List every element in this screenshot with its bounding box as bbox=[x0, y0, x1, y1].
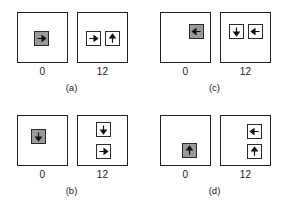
panel-caption: (a) bbox=[0, 82, 143, 93]
arrow-down-icon bbox=[33, 131, 44, 142]
tick-label-right: 12 bbox=[77, 169, 128, 180]
outlined-state-cell bbox=[96, 122, 111, 137]
gray-state-cell bbox=[189, 24, 204, 39]
state-box-left bbox=[160, 115, 211, 166]
panel-caption: (d) bbox=[143, 185, 286, 196]
state-box-left bbox=[17, 115, 68, 166]
state-box-left bbox=[160, 12, 211, 63]
state-box-left bbox=[17, 12, 68, 63]
box-row bbox=[17, 12, 128, 63]
outlined-state-cell bbox=[86, 31, 101, 46]
tick-label-left: 0 bbox=[160, 66, 211, 77]
tick-label-left: 0 bbox=[17, 66, 68, 77]
panel-b: 012(b) bbox=[0, 103, 143, 205]
state-box-right bbox=[220, 12, 271, 63]
outlined-state-cell bbox=[247, 124, 262, 139]
tick-label-left: 0 bbox=[17, 169, 68, 180]
arrow-up-icon bbox=[107, 33, 118, 44]
outlined-state-cell bbox=[229, 24, 244, 39]
arrow-down-icon bbox=[231, 26, 242, 37]
tick-label-left: 0 bbox=[160, 169, 211, 180]
arrow-right-icon bbox=[36, 33, 47, 44]
panel-c: 012(c) bbox=[143, 0, 286, 102]
arrow-left-icon bbox=[249, 126, 260, 137]
arrow-right-icon bbox=[88, 33, 99, 44]
gray-state-cell bbox=[182, 143, 197, 158]
state-box-right bbox=[77, 12, 128, 63]
gray-state-cell bbox=[31, 129, 46, 144]
arrow-left-icon bbox=[250, 26, 261, 37]
outlined-state-cell bbox=[247, 144, 262, 159]
box-row bbox=[160, 115, 271, 166]
state-box-right bbox=[220, 115, 271, 166]
tick-label-right: 12 bbox=[220, 169, 271, 180]
outlined-state-cell bbox=[96, 144, 111, 159]
tick-label-right: 12 bbox=[77, 66, 128, 77]
box-row bbox=[160, 12, 271, 63]
outlined-state-cell bbox=[105, 31, 120, 46]
figure-panel-grid: 012(a)012(c)012(b)012(d) bbox=[0, 0, 286, 205]
panel-d: 012(d) bbox=[143, 103, 286, 205]
panel-caption: (b) bbox=[0, 185, 143, 196]
arrow-left-icon bbox=[191, 26, 202, 37]
tick-label-right: 12 bbox=[220, 66, 271, 77]
outlined-state-cell bbox=[248, 24, 263, 39]
gray-state-cell bbox=[34, 31, 49, 46]
box-row bbox=[17, 115, 128, 166]
panel-caption: (c) bbox=[143, 82, 286, 93]
arrow-up-icon bbox=[249, 146, 260, 157]
arrow-down-icon bbox=[98, 124, 109, 135]
panel-a: 012(a) bbox=[0, 0, 143, 102]
arrow-up-icon bbox=[184, 145, 195, 156]
state-box-right bbox=[77, 115, 128, 166]
arrow-right-icon bbox=[98, 146, 109, 157]
